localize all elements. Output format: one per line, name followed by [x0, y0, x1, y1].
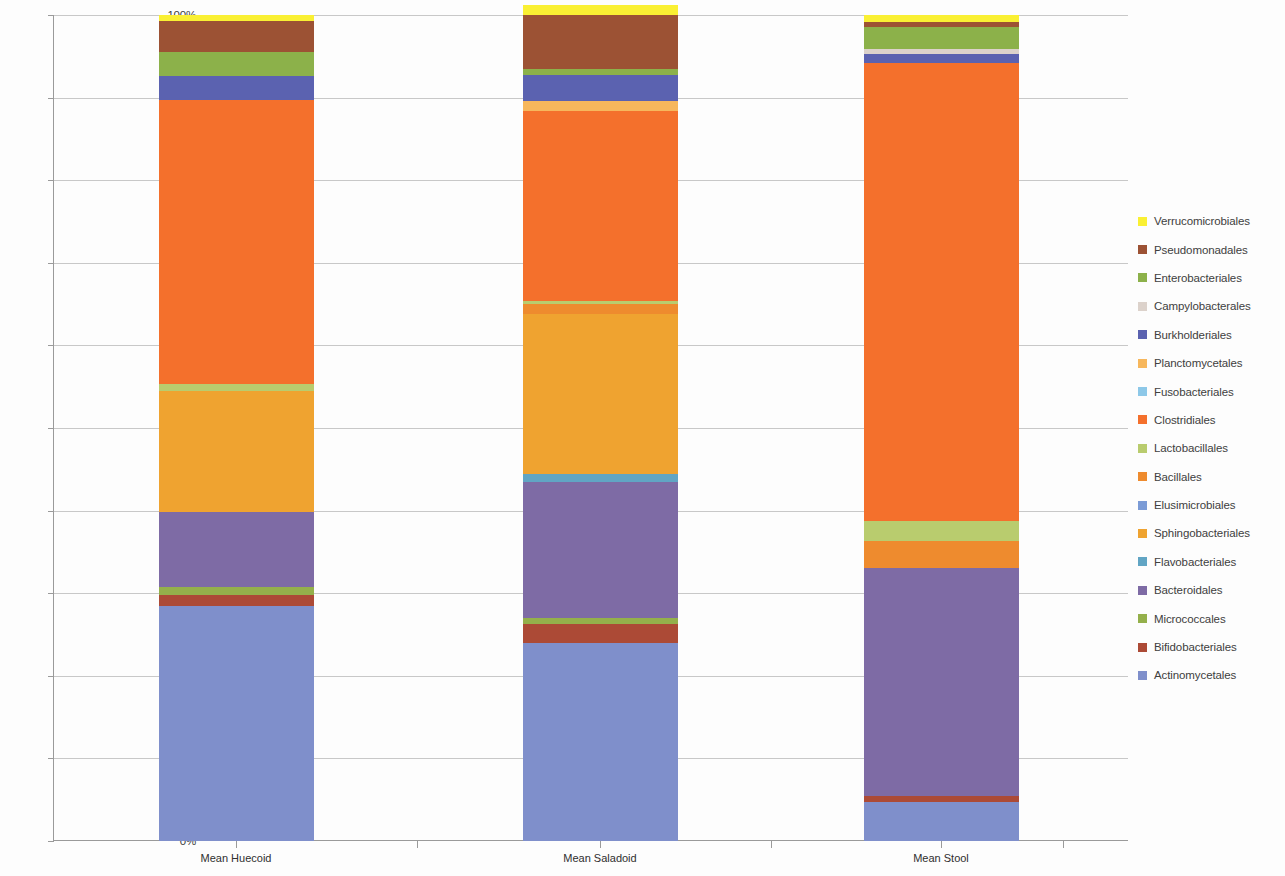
- bar-segment-burkholderiales: [864, 54, 1019, 63]
- legend-swatch-icon: [1138, 586, 1147, 595]
- legend-swatch-icon: [1138, 245, 1147, 254]
- chart-page: 0%10%20%30%40%50%60%70%80%90%100% Mean H…: [0, 0, 1285, 876]
- bar-segment-verrucomicrobiales: [523, 5, 678, 15]
- bar-segment-burkholderiales: [159, 76, 314, 100]
- legend-swatch-icon: [1138, 415, 1147, 424]
- legend-item[interactable]: Enterobacteriales: [1138, 264, 1285, 292]
- legend-item-label: Verrucomicrobiales: [1154, 215, 1250, 227]
- bar-segment-micrococcales: [523, 618, 678, 624]
- legend-item[interactable]: Bacteroidales: [1138, 576, 1285, 604]
- legend-swatch-icon: [1138, 444, 1147, 453]
- legend-item-label: Elusimicrobiales: [1154, 499, 1235, 511]
- bar-segment-micrococcales: [159, 587, 314, 595]
- legend-swatch-icon: [1138, 529, 1147, 538]
- y-tick-mark: [48, 15, 54, 16]
- legend-item-label: Bacillales: [1154, 471, 1202, 483]
- legend-item-label: Bacteroidales: [1154, 584, 1222, 596]
- legend-item-label: Enterobacteriales: [1154, 272, 1242, 284]
- bar-segment-verrucomicrobiales: [864, 15, 1019, 22]
- x-tick-mark-minor: [1063, 841, 1064, 848]
- legend-swatch-icon: [1138, 643, 1147, 652]
- bar-segment-planctomycetales: [523, 101, 678, 111]
- chart-legend: VerrucomicrobialesPseudomonadalesEnterob…: [1138, 207, 1285, 690]
- bar-segment-pseudomonadales: [864, 22, 1019, 28]
- legend-item[interactable]: Elusimicrobiales: [1138, 491, 1285, 519]
- bar-segment-bifidobacteriales: [864, 796, 1019, 803]
- x-tick-mark: [236, 841, 237, 848]
- bar-segment-lactobacillales: [159, 384, 314, 391]
- x-tick-mark-minor: [771, 841, 772, 848]
- legend-item[interactable]: Fusobacteriales: [1138, 377, 1285, 405]
- bar-segment-actinomycetales: [159, 606, 314, 841]
- legend-swatch-icon: [1138, 671, 1147, 680]
- x-tick-mark: [941, 841, 942, 848]
- x-axis-label: Mean Saladoid: [480, 852, 720, 864]
- bar-segment-bacteroidales: [159, 512, 314, 586]
- legend-item[interactable]: Burkholderiales: [1138, 321, 1285, 349]
- legend-item[interactable]: Sphingobacteriales: [1138, 519, 1285, 547]
- legend-item[interactable]: Planctomycetales: [1138, 349, 1285, 377]
- bar-segment-enterobacteriales: [159, 52, 314, 76]
- legend-swatch-icon: [1138, 557, 1147, 566]
- bar-mean-saladoid: [523, 15, 678, 841]
- legend-item-label: Sphingobacteriales: [1154, 527, 1250, 539]
- x-axis-label: Mean Huecoid: [116, 852, 356, 864]
- y-tick-mark: [48, 758, 54, 759]
- legend-item-label: Clostridiales: [1154, 414, 1215, 426]
- x-axis-label: Mean Stool: [821, 852, 1061, 864]
- x-tick-mark: [600, 841, 601, 848]
- y-tick-mark: [48, 676, 54, 677]
- y-tick-mark: [48, 593, 54, 594]
- bar-segment-pseudomonadales: [159, 21, 314, 52]
- legend-item-label: Pseudomonadales: [1154, 244, 1248, 256]
- bar-mean-huecoid: [159, 15, 314, 841]
- bar-segment-flavobacteriales: [523, 474, 678, 481]
- bar-mean-stool: [864, 15, 1019, 841]
- bar-segment-bacillales: [864, 541, 1019, 568]
- legend-swatch-icon: [1138, 501, 1147, 510]
- legend-item[interactable]: Pseudomonadales: [1138, 235, 1285, 263]
- bar-segment-verrucomicrobiales: [159, 15, 314, 21]
- y-tick-mark: [48, 841, 54, 842]
- legend-item-label: Burkholderiales: [1154, 329, 1232, 341]
- bar-segment-enterobacteriales: [523, 69, 678, 76]
- legend-swatch-icon: [1138, 302, 1147, 311]
- legend-item-label: Campylobacterales: [1154, 300, 1251, 312]
- legend-item-label: Actinomycetales: [1154, 669, 1236, 681]
- legend-item-label: Bifidobacteriales: [1154, 641, 1237, 653]
- bar-segment-sphingobacteriales: [159, 391, 314, 512]
- legend-item-label: Fusobacteriales: [1154, 386, 1234, 398]
- bar-segment-clostridiales: [523, 111, 678, 301]
- bar-segment-clostridiales: [864, 63, 1019, 521]
- y-tick-mark: [48, 98, 54, 99]
- legend-swatch-icon: [1138, 273, 1147, 282]
- bar-segment-pseudomonadales: [523, 15, 678, 69]
- bar-segment-bacteroidales: [864, 568, 1019, 795]
- legend-item[interactable]: Bifidobacteriales: [1138, 633, 1285, 661]
- legend-item[interactable]: Micrococcales: [1138, 604, 1285, 632]
- legend-item[interactable]: Clostridiales: [1138, 406, 1285, 434]
- bar-segment-lactobacillales: [523, 301, 678, 304]
- bar-segment-bacillales: [523, 304, 678, 314]
- legend-item-label: Planctomycetales: [1154, 357, 1243, 369]
- bar-segment-bifidobacteriales: [159, 595, 314, 606]
- legend-swatch-icon: [1138, 330, 1147, 339]
- legend-item[interactable]: Actinomycetales: [1138, 661, 1285, 689]
- legend-item[interactable]: Lactobacillales: [1138, 434, 1285, 462]
- x-tick-mark-minor: [417, 841, 418, 848]
- bar-segment-actinomycetales: [523, 643, 678, 841]
- legend-swatch-icon: [1138, 387, 1147, 396]
- legend-item[interactable]: Flavobacteriales: [1138, 548, 1285, 576]
- legend-item-label: Flavobacteriales: [1154, 556, 1236, 568]
- bar-segment-sphingobacteriales: [523, 314, 678, 474]
- y-tick-mark: [48, 428, 54, 429]
- bar-segment-bifidobacteriales: [523, 624, 678, 643]
- legend-item[interactable]: Bacillales: [1138, 463, 1285, 491]
- bar-segment-enterobacteriales: [864, 27, 1019, 48]
- legend-item[interactable]: Campylobacterales: [1138, 292, 1285, 320]
- y-tick-mark: [48, 263, 54, 264]
- legend-item-label: Lactobacillales: [1154, 442, 1228, 454]
- legend-item[interactable]: Verrucomicrobiales: [1138, 207, 1285, 235]
- bar-segment-lactobacillales: [864, 521, 1019, 541]
- y-tick-mark: [48, 345, 54, 346]
